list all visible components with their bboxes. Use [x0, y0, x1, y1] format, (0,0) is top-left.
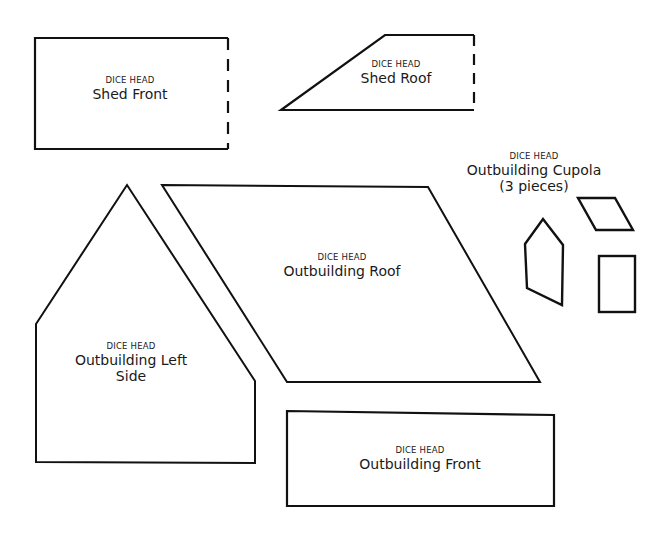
brand-text: DICE HEAD — [92, 76, 167, 86]
piece-name: Outbuilding Roof — [283, 263, 400, 279]
outbuilding-roof-outline — [162, 185, 540, 382]
brand-text: DICE HEAD — [359, 446, 480, 456]
cupola-side-outline — [525, 219, 563, 305]
cupola-front-outline — [599, 256, 635, 312]
brand-text: DICE HEAD — [75, 342, 187, 352]
outbuilding-left-side-outline — [36, 185, 255, 463]
outbuilding-cupola-label: DICE HEAD Outbuilding Cupola (3 pieces) — [467, 152, 601, 194]
shed-front-label: DICE HEAD Shed Front — [92, 76, 167, 102]
piece-name: Shed Front — [92, 86, 167, 102]
piece-name: Outbuilding Front — [359, 456, 480, 472]
outbuilding-left-side-label: DICE HEAD Outbuilding Left Side — [75, 342, 187, 384]
outbuilding-front-label: DICE HEAD Outbuilding Front — [359, 446, 480, 472]
brand-text: DICE HEAD — [467, 152, 601, 162]
outbuilding-roof-label: DICE HEAD Outbuilding Roof — [283, 253, 400, 279]
cupola-roof-outline — [578, 198, 633, 230]
piece-note: (3 pieces) — [467, 178, 601, 194]
piece-name-line2: Side — [75, 368, 187, 384]
piece-name: Outbuilding Cupola — [467, 162, 601, 178]
brand-text: DICE HEAD — [361, 60, 432, 70]
piece-name: Outbuilding Left — [75, 352, 187, 368]
shed-roof-label: DICE HEAD Shed Roof — [361, 60, 432, 86]
brand-text: DICE HEAD — [283, 253, 400, 263]
piece-name: Shed Roof — [361, 70, 432, 86]
